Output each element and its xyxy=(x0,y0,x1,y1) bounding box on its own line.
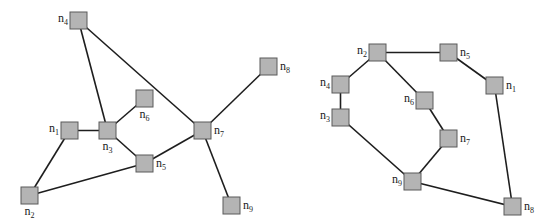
node-left-n5: n5 xyxy=(136,155,166,172)
node-right-n5: n5 xyxy=(440,44,470,61)
node-label: n6 xyxy=(140,107,150,123)
node-box xyxy=(416,92,433,109)
node-right-n2: n2 xyxy=(357,43,386,61)
node-right-n9: n9 xyxy=(392,172,421,190)
node-box xyxy=(440,130,457,147)
node-box xyxy=(260,58,277,75)
node-box xyxy=(223,197,240,214)
edge-right-n1-n8 xyxy=(495,86,513,207)
node-right-n4: n4 xyxy=(320,75,349,93)
right-graph-nodes: n1n2n3n4n5n6n7n8n9 xyxy=(320,43,534,215)
node-label: n2 xyxy=(357,43,367,59)
node-left-n7: n7 xyxy=(194,122,224,139)
right-graph-edges xyxy=(341,53,513,207)
edge-left-n4-n3 xyxy=(79,21,108,131)
node-box xyxy=(136,155,153,172)
node-left-n8: n8 xyxy=(260,58,290,75)
node-box xyxy=(332,109,349,126)
node-label: n3 xyxy=(320,108,330,124)
left-graph-edges xyxy=(30,21,269,206)
node-label: n5 xyxy=(156,156,166,172)
edge-right-n9-n8 xyxy=(413,182,513,207)
node-label: n9 xyxy=(243,198,253,214)
node-box xyxy=(369,44,386,61)
node-box xyxy=(504,198,521,215)
node-left-n4: n4 xyxy=(58,11,87,29)
graph-diagram-canvas: n1n2n3n4n5n6n7n8n9n1n2n3n4n5n6n7n8n9 xyxy=(0,0,548,224)
node-right-n1: n1 xyxy=(486,77,516,94)
node-left-n9: n9 xyxy=(223,197,253,214)
node-box xyxy=(99,122,116,139)
node-right-n3: n3 xyxy=(320,108,349,126)
node-right-n6: n6 xyxy=(404,91,433,109)
node-box xyxy=(404,173,421,190)
node-left-n2: n2 xyxy=(21,187,38,220)
node-label: n8 xyxy=(524,199,534,215)
edge-left-n7-n8 xyxy=(203,67,269,131)
node-label: n7 xyxy=(460,131,470,147)
node-left-n3: n3 xyxy=(99,122,116,155)
edge-right-n3-n9 xyxy=(341,118,413,182)
node-box xyxy=(70,12,87,29)
node-label: n4 xyxy=(320,75,330,91)
node-label: n9 xyxy=(392,172,402,188)
node-box xyxy=(332,76,349,93)
left-graph-nodes: n1n2n3n4n5n6n7n8n9 xyxy=(21,11,290,220)
node-label: n1 xyxy=(49,121,59,137)
node-label: n4 xyxy=(58,11,68,27)
node-label: n7 xyxy=(214,123,224,139)
node-label: n6 xyxy=(404,91,414,107)
node-label: n2 xyxy=(25,204,35,220)
edge-left-n7-n9 xyxy=(203,131,232,206)
node-box xyxy=(136,90,153,107)
node-right-n8: n8 xyxy=(504,198,534,215)
node-label: n3 xyxy=(103,139,113,155)
network-graphs: n1n2n3n4n5n6n7n8n9n1n2n3n4n5n6n7n8n9 xyxy=(0,0,548,224)
node-box xyxy=(486,77,503,94)
node-label: n5 xyxy=(460,45,470,61)
nodes-layer: n1n2n3n4n5n6n7n8n9n1n2n3n4n5n6n7n8n9 xyxy=(21,11,534,220)
node-box xyxy=(440,44,457,61)
node-label: n1 xyxy=(506,78,516,94)
node-label: n8 xyxy=(280,59,290,75)
node-right-n7: n7 xyxy=(440,130,470,147)
node-box xyxy=(194,122,211,139)
node-left-n1: n1 xyxy=(49,121,78,139)
node-left-n6: n6 xyxy=(136,90,153,123)
node-box xyxy=(61,122,78,139)
node-box xyxy=(21,187,38,204)
